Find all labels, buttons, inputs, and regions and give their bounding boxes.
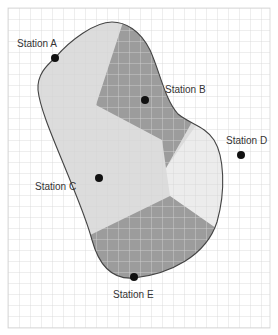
- station-e-label: Station E: [113, 289, 154, 301]
- station-d-marker: [237, 151, 245, 159]
- station-a-label: Station A: [17, 38, 57, 50]
- station-b-marker: [141, 96, 149, 104]
- grid: [8, 8, 270, 328]
- station-e-marker: [130, 273, 138, 281]
- station-b-label: Station B: [165, 84, 206, 96]
- station-c-label: Station C: [35, 181, 76, 193]
- voronoi-diagram: [0, 0, 278, 335]
- station-d-label: Station D: [226, 135, 267, 147]
- station-c-marker: [95, 174, 103, 182]
- station-a-marker: [51, 54, 59, 62]
